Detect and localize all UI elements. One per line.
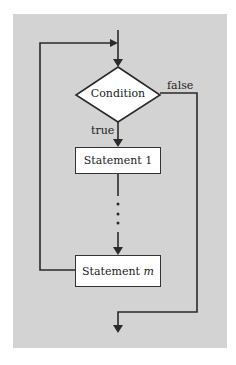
statement-m-label-prefix: Statement [82,265,143,278]
flowchart-connectors [0,0,236,365]
statement-m-box: Statement m [75,255,161,287]
true-branch-label: true [91,124,114,137]
statement-1-box: Statement 1 [75,147,161,174]
false-branch-label: false [167,79,193,92]
decision-condition-label: Condition [75,87,161,100]
statement-m-variable: m [143,265,153,278]
statement-1-label: Statement 1 [84,154,152,167]
